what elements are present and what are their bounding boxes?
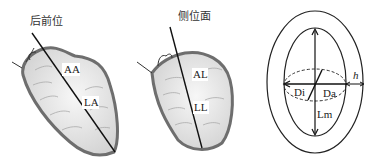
label-h: h — [353, 69, 359, 81]
panel-lateral: 侧位面 AL LL — [137, 9, 232, 149]
label-di: Di — [294, 86, 305, 98]
label-lm: Lm — [317, 108, 333, 120]
diagram-canvas: 后前位 AA LA 侧位面 — [0, 0, 366, 163]
panel-posteroanterior: 后前位 AA LA — [12, 14, 117, 155]
label-aa: AA — [64, 63, 80, 75]
label-al: AL — [193, 68, 208, 80]
label-la: LA — [84, 96, 99, 108]
panel-title: 侧位面 — [178, 9, 211, 23]
panel-title: 后前位 — [30, 14, 63, 28]
label-ll: LL — [194, 101, 208, 113]
panel-ellipsoid-model: Di Da h Lm — [267, 11, 364, 153]
label-da: Da — [323, 87, 336, 99]
